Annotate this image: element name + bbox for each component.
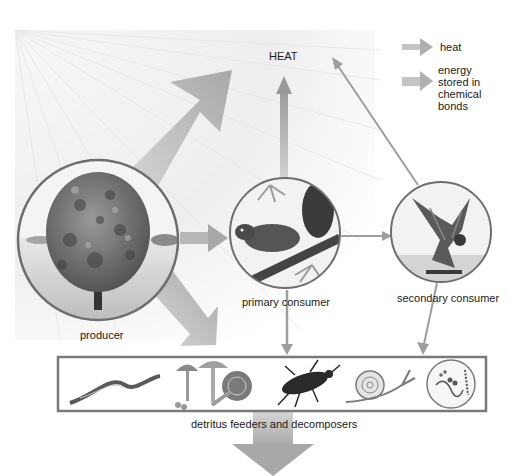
decomposers-box <box>58 357 486 411</box>
legend-heat-label: heat <box>440 41 461 53</box>
legend-heat-arrow <box>402 38 433 56</box>
producer-node <box>18 160 179 320</box>
legend-energy-arrow <box>402 71 433 91</box>
primary-consumer-label: primary consumer <box>242 296 330 308</box>
secondary-consumer-label: secondary consumer <box>397 292 499 304</box>
producer-label: producer <box>80 329 123 341</box>
legend-energy-line: chemical <box>438 88 481 100</box>
legend-energy-label: energy stored in chemical bonds <box>438 64 481 112</box>
legend-energy-line: stored in <box>438 76 481 88</box>
decomposers-label: detritus feeders and decomposers <box>191 418 357 430</box>
energy-flow-diagram <box>0 0 510 476</box>
legend-energy-line: bonds <box>438 100 481 112</box>
legend-energy-line: energy <box>438 64 481 76</box>
bacteria-icon <box>427 360 475 408</box>
heat-label: HEAT <box>269 50 298 62</box>
secondary-consumer-node <box>391 182 491 285</box>
